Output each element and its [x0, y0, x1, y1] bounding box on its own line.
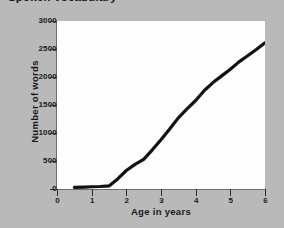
- x-axis-tick-label: 4: [184, 196, 209, 205]
- y-axis-tick-mark: [50, 133, 57, 134]
- x-axis-tick-label: 0: [45, 196, 70, 205]
- x-axis-tick-label: 3: [149, 196, 174, 205]
- x-axis-tick-label: 2: [114, 196, 139, 205]
- x-axis-tick-mark: [126, 189, 127, 196]
- plot-area: [57, 21, 265, 189]
- y-axis-tick-mark: [50, 49, 57, 50]
- x-axis-tick-mark: [92, 189, 93, 196]
- x-axis-tick-mark: [230, 189, 231, 196]
- y-axis-tick-mark: [50, 21, 57, 22]
- y-axis-tick-mark: [50, 105, 57, 106]
- x-axis-tick-mark: [57, 189, 58, 196]
- y-axis-tick-mark: [50, 161, 57, 162]
- x-axis-tick-mark: [265, 189, 266, 196]
- line-chart-svg: [57, 21, 265, 189]
- x-axis-tick-mark: [161, 189, 162, 196]
- x-axis-tick-label: 1: [80, 196, 105, 205]
- x-axis-tick-mark: [196, 189, 197, 196]
- data-series-line: [74, 43, 265, 187]
- x-axis-title: Age in years: [57, 206, 265, 217]
- chart-title: Spoken vocabulary: [8, 0, 117, 3]
- y-axis-tick-mark: [50, 77, 57, 78]
- x-axis-tick-label: 6: [253, 196, 278, 205]
- x-axis-tick-label: 5: [218, 196, 243, 205]
- chart-figure: Spoken vocabulary 0500100015002000250030…: [0, 0, 284, 228]
- y-axis-title: Number of words: [29, 22, 40, 182]
- y-axis-tick-mark: [50, 189, 57, 190]
